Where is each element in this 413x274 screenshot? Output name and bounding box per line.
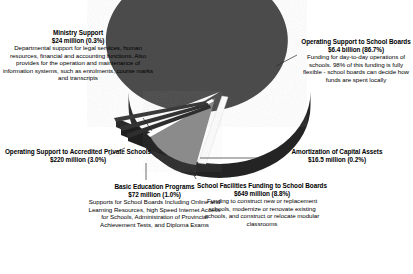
callout-operating-title: Operating Support to School Boards: [300, 38, 412, 46]
callout-operating-support: Operating Support to School Boards $6.4 …: [300, 38, 412, 83]
callout-ministry-support: Ministry Support $24 million (0.3%) Depa…: [2, 29, 154, 82]
chart-canvas: Ministry Support $24 million (0.3%) Depa…: [0, 0, 413, 274]
callout-private-schools: Operating Support to Accredited Private …: [2, 148, 154, 163]
callout-amortization-title: Amortization of Capital Assets: [263, 148, 411, 156]
callout-private-title: Operating Support to Accredited Private …: [2, 148, 154, 156]
callout-school-facilities: School Facilities Funding to School Boar…: [197, 182, 327, 227]
callout-facilities-desc: Funding to construct new or replacement …: [197, 197, 327, 227]
callout-ministry-amount: $24 million (0.3%): [2, 37, 154, 45]
callout-facilities-amount: $649 million (8.8%): [197, 190, 327, 198]
callout-amortization-amount: $16.5 million (0.2%): [263, 156, 411, 164]
callout-operating-desc: Funding for day-to-day operations of sch…: [300, 53, 412, 83]
callout-amortization: Amortization of Capital Assets $16.5 mil…: [263, 148, 411, 163]
callout-ministry-desc: Departmental support for legal services,…: [2, 44, 154, 82]
callout-facilities-title: School Facilities Funding to School Boar…: [197, 182, 327, 190]
callout-ministry-title: Ministry Support: [2, 29, 154, 37]
callout-operating-amount: $6.4 billion (86.7%): [300, 46, 412, 54]
callout-private-amount: $220 million (3.0%): [2, 156, 154, 164]
